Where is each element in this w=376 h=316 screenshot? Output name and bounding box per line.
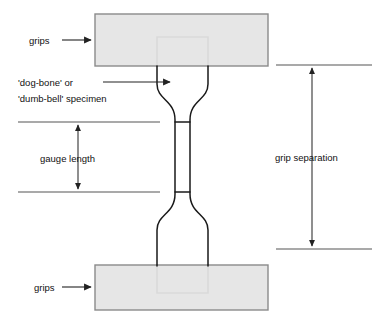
grips-bottom-label: grips: [34, 282, 55, 293]
grip-separation-label: grip separation: [275, 152, 338, 163]
grip-block-top: [95, 14, 268, 66]
specimen-label-line2: 'dumb-bell' specimen: [18, 93, 107, 104]
tensile-specimen-diagram: grips grips 'dog-bone' or 'dumb-bell' sp…: [0, 0, 376, 316]
grips-top-label: grips: [29, 35, 50, 46]
grip-block-bottom: [95, 265, 268, 310]
specimen-outline: [157, 66, 208, 266]
diagram-canvas: grips grips 'dog-bone' or 'dumb-bell' sp…: [0, 0, 376, 316]
specimen-hidden-outline: [157, 37, 208, 293]
gauge-length-label: gauge length: [40, 153, 95, 164]
specimen-label-line1: 'dog-bone' or: [18, 77, 73, 88]
